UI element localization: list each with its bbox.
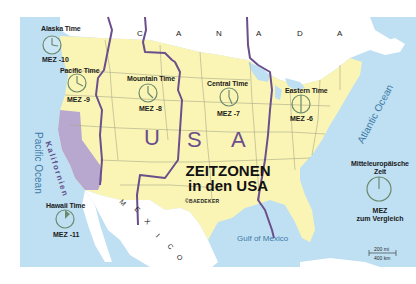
canada-letter-d: D — [297, 29, 303, 38]
eastern-time-label: Eastern Time — [285, 87, 328, 94]
usa-letter-a: A — [231, 127, 246, 153]
mountain-offset-label: MEZ -8 — [139, 105, 162, 112]
alaska-clock-icon — [43, 36, 61, 54]
central-offset-label: MEZ -7 — [217, 110, 240, 117]
eastern-offset-label: MEZ -6 — [290, 115, 313, 122]
mez-reference-title: Mitteleuropäische Zeit — [350, 160, 410, 176]
scale-km: 400 km — [374, 255, 390, 261]
canada-letter-c: C — [137, 29, 143, 38]
hawaii-time-label: Hawaii Time — [46, 202, 85, 209]
title-line-2: in den USA — [183, 178, 273, 193]
pacific-ocean-label: Pacific Ocean — [33, 132, 44, 194]
hawaii-offset-label: MEZ -11 — [53, 231, 79, 238]
mez-label-line-2: zum Vergleich — [355, 215, 405, 223]
time-zone-map — [0, 0, 416, 284]
pacific-time-label: Pacific Time — [60, 67, 100, 74]
mez-title-line-2: Zeit — [350, 168, 410, 176]
mez-title-line-1: Mitteleuropäische — [350, 160, 410, 168]
pacific-offset-label: MEZ -9 — [67, 96, 90, 103]
publisher-credit: ©BAEDEKER — [185, 198, 219, 204]
title-line-1: ZEITZONEN — [183, 163, 273, 178]
canada-letter-a2: A — [256, 29, 261, 38]
canada-letter-n: N — [216, 29, 222, 38]
gulf-of-mexico-label: Gulf of Mexico — [237, 234, 288, 243]
mountain-time-label: Mountain Time — [127, 75, 175, 82]
usa-letter-u: U — [144, 125, 160, 151]
central-time-label: Central Time — [207, 80, 248, 87]
mez-reference-label: MEZ zum Vergleich — [355, 207, 405, 223]
alaska-offset-label: MEZ -10 — [42, 56, 69, 63]
mez-label-line-1: MEZ — [355, 207, 405, 215]
scale-miles: 200 mi — [374, 246, 389, 252]
canada-letter-a3: A — [337, 29, 342, 38]
map-title: ZEITZONEN in den USA — [183, 163, 273, 193]
alaska-time-label: Alaska Time — [41, 25, 81, 32]
canada-letter-a1: A — [176, 29, 181, 38]
usa-letter-s: S — [187, 127, 202, 153]
